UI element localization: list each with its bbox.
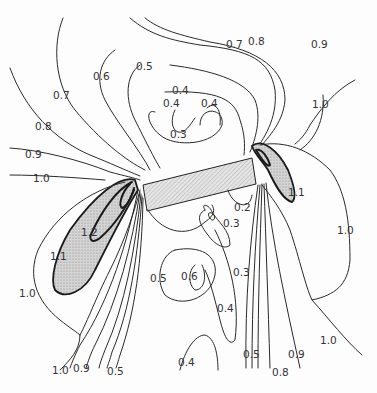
label-0.9-bottom-right: 0.9 — [288, 348, 305, 360]
label-0.5-bottom-right: 0.5 — [243, 348, 260, 360]
label-1.1-left: 1.1 — [50, 250, 67, 262]
label-0.5-bottom-left: 0.5 — [107, 365, 124, 377]
label-0.5-lower: 0.5 — [150, 272, 167, 284]
label-0.4-center-c: 0.4 — [201, 97, 218, 109]
label-1.1-right: 1.1 — [288, 186, 305, 198]
label-0.5-top: 0.5 — [136, 60, 153, 72]
label-0.9-left: 0.9 — [25, 148, 42, 160]
label-0.3-lower-a: 0.3 — [223, 217, 240, 229]
label-1.0-bottom: 1.0 — [52, 364, 69, 376]
label-1.0-right-mid: 1.0 — [337, 224, 354, 236]
label-0.8-top: 0.8 — [248, 35, 265, 47]
label-0.4-center-b: 0.4 — [163, 97, 180, 109]
label-1.0-left: 1.0 — [33, 172, 50, 184]
label-0.9-top: 0.9 — [311, 38, 328, 50]
contour-figure: 0.7 0.8 0.9 0.6 0.5 0.7 0.8 0.9 1.0 0.4 … — [0, 0, 377, 393]
label-1.2-left: 1.2 — [81, 226, 98, 238]
label-0.3-lower-b: 0.3 — [233, 266, 250, 278]
label-0.2: 0.2 — [234, 201, 251, 213]
label-1.0-left-mid: 1.0 — [19, 287, 36, 299]
label-0.3-center: 0.3 — [170, 128, 187, 140]
contour-plot-svg: 0.7 0.8 0.9 0.6 0.5 0.7 0.8 0.9 1.0 0.4 … — [0, 0, 377, 393]
label-0.6: 0.6 — [93, 70, 110, 82]
label-0.6-lower: 0.6 — [181, 270, 198, 282]
label-0.4-center-a: 0.4 — [172, 84, 189, 96]
label-0.4-lower: 0.4 — [217, 302, 234, 314]
label-1.0-right-top: 1.0 — [312, 98, 329, 110]
label-0.7-left: 0.7 — [53, 89, 70, 101]
label-0.9-bottom-left: 0.9 — [73, 362, 90, 374]
label-0.8-left: 0.8 — [35, 120, 52, 132]
label-0.4-bottom: 0.4 — [178, 356, 195, 368]
label-1.0-right-low: 1.0 — [320, 334, 337, 346]
label-0.8-bottom: 0.8 — [272, 366, 289, 378]
label-0.7-top: 0.7 — [226, 38, 243, 50]
